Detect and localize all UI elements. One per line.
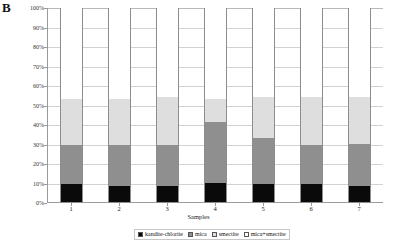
bar-segment-smectite[interactable] <box>205 99 226 122</box>
x-tick-label: 4 <box>205 205 225 213</box>
legend-label: smectite <box>219 231 239 238</box>
y-tick-label: 100% <box>2 5 44 11</box>
bar-segment-smectite[interactable] <box>157 97 178 146</box>
legend-swatch-icon <box>188 232 193 237</box>
legend-swatch-icon <box>244 232 249 237</box>
bar-segment-mica+smectite[interactable] <box>61 7 82 99</box>
bar-column[interactable] <box>348 8 371 203</box>
stacked-bar[interactable] <box>204 8 227 203</box>
x-tick-label: 7 <box>349 205 369 213</box>
stacked-bar[interactable] <box>252 8 275 203</box>
bar-segment-smectite[interactable] <box>349 97 370 144</box>
y-tick-label: 0% <box>2 200 44 206</box>
bar-column[interactable] <box>108 8 131 203</box>
y-tick-label: 20% <box>2 161 44 167</box>
bar-column[interactable] <box>60 8 83 203</box>
y-axis: 0%10%20%30%40%50%60%70%80%90%100% <box>0 8 44 203</box>
x-tick-mark <box>119 203 120 206</box>
y-tick-label: 80% <box>2 44 44 50</box>
bar-segment-smectite[interactable] <box>253 97 274 138</box>
x-tick-mark <box>71 203 72 206</box>
bar-column[interactable] <box>156 8 179 203</box>
legend-item[interactable]: mica <box>188 231 207 238</box>
bar-segment-smectite[interactable] <box>301 97 322 146</box>
x-tick-mark <box>311 203 312 206</box>
bar-group <box>47 8 383 203</box>
chart-root: B 0%10%20%30%40%50%60%70%80%90%100% 1234… <box>0 0 397 244</box>
stacked-bar[interactable] <box>156 8 179 203</box>
bar-column[interactable] <box>204 8 227 203</box>
legend-item[interactable]: mica+smectite <box>244 231 286 238</box>
y-tick-label: 70% <box>2 64 44 70</box>
bar-segment-mica[interactable] <box>253 138 274 185</box>
x-tick-label: 6 <box>301 205 321 213</box>
x-tick-mark <box>263 203 264 206</box>
bar-segment-kandite-chlorite[interactable] <box>205 183 226 203</box>
bar-segment-kandite-chlorite[interactable] <box>157 186 178 202</box>
x-tick-label: 2 <box>109 205 129 213</box>
legend-item[interactable]: kandite-chlorite <box>138 231 183 238</box>
x-tick-label: 5 <box>253 205 273 213</box>
chart-legend: kandite-chloritemicasmectitemica+smectit… <box>134 229 290 240</box>
bar-segment-mica[interactable] <box>61 145 82 184</box>
bar-segment-kandite-chlorite[interactable] <box>61 184 82 202</box>
bar-segment-mica+smectite[interactable] <box>205 7 226 99</box>
y-tick-label: 60% <box>2 83 44 89</box>
bar-segment-mica[interactable] <box>205 122 226 182</box>
bar-segment-mica+smectite[interactable] <box>253 7 274 97</box>
legend-label: kandite-chlorite <box>145 231 183 238</box>
bar-segment-mica+smectite[interactable] <box>349 7 370 97</box>
bar-segment-mica+smectite[interactable] <box>157 7 178 97</box>
legend-label: mica <box>195 231 207 238</box>
bar-segment-kandite-chlorite[interactable] <box>109 186 130 202</box>
legend-label: mica+smectite <box>251 231 286 238</box>
stacked-bar[interactable] <box>300 8 323 203</box>
bar-segment-kandite-chlorite[interactable] <box>301 184 322 202</box>
bar-segment-mica+smectite[interactable] <box>109 7 130 99</box>
stacked-bar[interactable] <box>60 8 83 203</box>
y-tick-label: 90% <box>2 25 44 31</box>
stacked-bar[interactable] <box>348 8 371 203</box>
bar-segment-mica+smectite[interactable] <box>301 7 322 97</box>
bar-segment-mica[interactable] <box>349 144 370 187</box>
stacked-bar[interactable] <box>108 8 131 203</box>
bar-segment-mica[interactable] <box>109 145 130 186</box>
y-tick-label: 10% <box>2 181 44 187</box>
bar-column[interactable] <box>252 8 275 203</box>
x-tick-label: 1 <box>61 205 81 213</box>
bar-segment-kandite-chlorite[interactable] <box>349 186 370 202</box>
bar-column[interactable] <box>300 8 323 203</box>
bar-segment-mica[interactable] <box>157 145 178 186</box>
x-tick-mark <box>167 203 168 206</box>
bar-segment-mica[interactable] <box>301 145 322 184</box>
bar-segment-kandite-chlorite[interactable] <box>253 184 274 202</box>
bar-segment-smectite[interactable] <box>61 99 82 146</box>
y-tick-mark <box>44 203 47 204</box>
y-tick-label: 50% <box>2 103 44 109</box>
x-tick-mark <box>359 203 360 206</box>
x-axis-title: Samples <box>0 213 397 220</box>
x-tick-mark <box>215 203 216 206</box>
bar-segment-smectite[interactable] <box>109 99 130 146</box>
y-tick-label: 30% <box>2 142 44 148</box>
y-tick-label: 40% <box>2 122 44 128</box>
legend-swatch-icon <box>138 232 143 237</box>
x-tick-label: 3 <box>157 205 177 213</box>
legend-item[interactable]: smectite <box>212 231 239 238</box>
legend-swatch-icon <box>212 232 217 237</box>
